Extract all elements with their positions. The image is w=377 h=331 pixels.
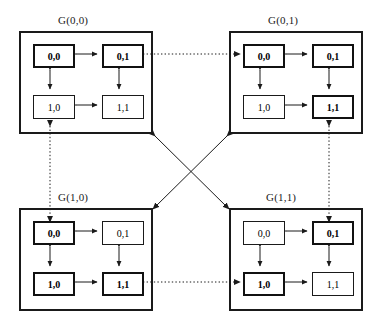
cluster-g01[interactable]: 0,00,11,01,1: [229, 31, 363, 134]
network-diagram: G(0,0)0,00,11,01,1G(0,1)0,00,11,01,1G(1,…: [0, 0, 377, 331]
cluster-label-g01: G(0,1): [268, 14, 298, 26]
node-g00-n10[interactable]: 1,0: [33, 95, 75, 119]
node-g01-n11[interactable]: 1,1: [312, 95, 354, 119]
node-g10-n01[interactable]: 0,1: [102, 221, 144, 245]
cluster-label-g11: G(1,1): [266, 191, 296, 203]
node-g00-n11[interactable]: 1,1: [102, 95, 144, 119]
node-g00-n00[interactable]: 0,0: [33, 44, 75, 68]
node-g01-n00[interactable]: 0,0: [243, 44, 285, 68]
node-g11-n00[interactable]: 0,0: [243, 221, 285, 245]
node-g01-n01[interactable]: 0,1: [312, 44, 354, 68]
node-g10-n10[interactable]: 1,0: [33, 272, 75, 296]
cluster-label-g10: G(1,0): [58, 191, 88, 203]
node-g10-n11[interactable]: 1,1: [102, 272, 144, 296]
cluster-label-g00: G(0,0): [58, 14, 88, 26]
node-g10-n00[interactable]: 0,0: [33, 221, 75, 245]
node-g11-n01[interactable]: 0,1: [312, 221, 354, 245]
node-g11-n10[interactable]: 1,0: [243, 272, 285, 296]
cluster-g00[interactable]: 0,00,11,01,1: [19, 31, 153, 134]
cluster-g10[interactable]: 0,00,11,01,1: [19, 208, 153, 311]
node-g11-n11[interactable]: 1,1: [312, 272, 354, 296]
node-g00-n01[interactable]: 0,1: [102, 44, 144, 68]
cluster-g11[interactable]: 0,00,11,01,1: [229, 208, 363, 311]
link-diagonal-nw-se: [155, 136, 229, 209]
node-g01-n10[interactable]: 1,0: [243, 95, 285, 119]
link-diagonal-ne-sw: [153, 136, 227, 209]
